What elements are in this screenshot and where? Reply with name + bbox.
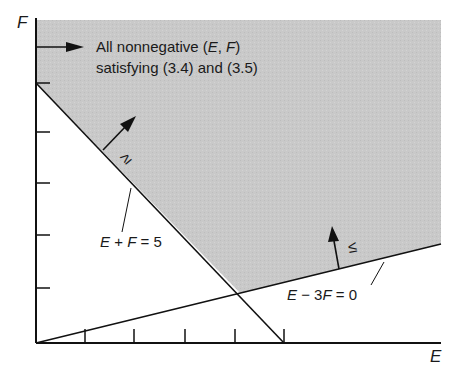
label-e-minus-3f-eq-0: E − 3F = 0 [287,286,357,303]
feasible-region-diagram: ≥ ≤ F E All nonnegative (E, F) satisfyin… [0,0,467,379]
f-axis-label: F [17,13,29,32]
f-axis-ticks [36,83,50,288]
region-label-line2: satisfying (3.4) and (3.5) [96,59,258,76]
leader-e-plus-f [122,188,131,232]
e-axis-label: E [430,347,442,366]
label-e-plus-f-eq-5: E + F = 5 [100,233,162,250]
region-label-line1: All nonnegative (E, F) [96,38,240,55]
leader-e-minus-3f [371,262,384,285]
e-axis-ticks [85,329,284,343]
